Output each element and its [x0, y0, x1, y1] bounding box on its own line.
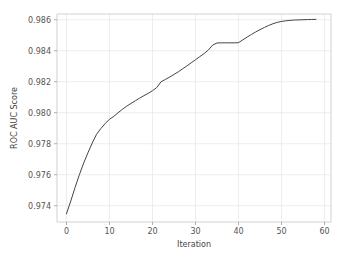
x-tick-label: 30	[190, 227, 200, 236]
x-tick-label: 10	[104, 227, 114, 236]
y-tick-label: 0.980	[28, 109, 51, 118]
y-tick-label: 0.974	[28, 202, 51, 211]
x-tick-label: 40	[233, 227, 243, 236]
x-tick-label: 50	[276, 227, 286, 236]
y-tick-label: 0.986	[28, 16, 51, 25]
x-tick-label: 20	[147, 227, 157, 236]
plot-area-background	[57, 14, 331, 222]
x-tick-label: 60	[319, 227, 329, 236]
y-tick-label: 0.982	[28, 78, 51, 87]
y-axis-label: ROC AUC Score	[10, 87, 19, 149]
y-tick-label: 0.976	[28, 171, 51, 180]
chart-figure: 0102030405060 0.9740.9760.9780.9800.9820…	[0, 0, 346, 257]
x-tick-label: 0	[64, 227, 69, 236]
roc-auc-line-chart: 0102030405060 0.9740.9760.9780.9800.9820…	[0, 0, 346, 257]
y-tick-label: 0.978	[28, 140, 51, 149]
x-axis-label: Iteration	[177, 240, 211, 249]
y-tick-label: 0.984	[28, 47, 51, 56]
